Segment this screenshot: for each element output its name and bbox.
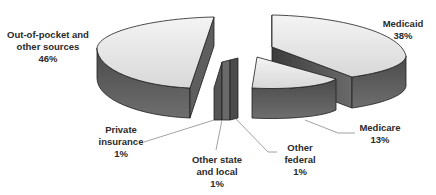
slice-private-insurance (214, 62, 222, 120)
label-private-insurance-line1: Private (96, 124, 146, 136)
leader-other-state-local (216, 120, 222, 150)
label-other-state-local-pct: 1% (190, 178, 244, 190)
label-private-insurance: Private insurance 1% (96, 124, 146, 160)
label-medicaid-pct: 38% (378, 30, 428, 42)
label-other-state-local-line1: Other state (190, 154, 244, 166)
label-other-federal: Other federal 1% (280, 142, 320, 178)
label-other-state-local-line2: and local (190, 166, 244, 178)
slice-other-federal (230, 58, 238, 120)
label-other-state-local: Other state and local 1% (190, 154, 244, 190)
label-other-federal-line2: federal (280, 154, 320, 166)
label-medicare-line1: Medicare (355, 122, 405, 134)
leader-private-insurance (144, 120, 214, 142)
label-medicaid-line1: Medicaid (378, 18, 428, 30)
label-out-of-pocket-line1: Out-of-pocket and (6, 29, 90, 41)
leader-medicare (305, 120, 355, 133)
label-out-of-pocket-pct: 46% (6, 53, 90, 65)
slice-thin-group (214, 58, 238, 120)
leader-other-federal (236, 119, 277, 152)
leader-lines (144, 119, 355, 152)
label-medicare-pct: 13% (355, 134, 405, 146)
label-other-federal-pct: 1% (280, 166, 320, 178)
label-private-insurance-line2: insurance (96, 136, 146, 148)
label-out-of-pocket: Out-of-pocket and other sources 46% (6, 29, 90, 65)
label-private-insurance-pct: 1% (96, 148, 146, 160)
label-other-federal-line1: Other (280, 142, 320, 154)
slice-out-of-pocket (97, 17, 214, 118)
label-medicare: Medicare 13% (355, 122, 405, 146)
label-out-of-pocket-line2: other sources (6, 41, 90, 53)
label-medicaid: Medicaid 38% (378, 18, 428, 42)
slice-other-state-local (222, 60, 230, 120)
